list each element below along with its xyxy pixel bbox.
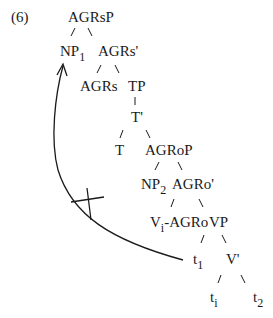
- node-agro-bar: AGRo': [172, 177, 214, 192]
- node-agrs: AGRs: [80, 79, 118, 94]
- node-np2: NP2: [141, 177, 166, 192]
- node-t: T: [115, 143, 124, 158]
- vi-base: V: [150, 214, 161, 230]
- node-vi-agro: Vi-AGRo: [150, 215, 208, 230]
- ti-subscript: i: [214, 296, 217, 310]
- syntax-tree-diagram: (6) AGRsP NP1 AGRs' AGRs TP T' T AGRoP N…: [0, 0, 273, 318]
- node-agrsp: AGRsP: [68, 10, 114, 25]
- node-ti: ti: [210, 290, 218, 305]
- np2-subscript: 2: [160, 183, 166, 197]
- node-v-bar: V': [226, 252, 240, 267]
- node-agrs-bar: AGRs': [98, 44, 138, 59]
- example-number: (6): [11, 10, 29, 25]
- node-vp: VP: [209, 215, 228, 230]
- node-t1: t1: [193, 252, 203, 267]
- np2-base: NP: [141, 176, 160, 192]
- vi-agro-suffix: -AGRo: [164, 214, 208, 230]
- t2-subscript: 2: [257, 296, 263, 310]
- node-t-bar: T': [131, 110, 143, 125]
- node-np1: NP1: [60, 44, 85, 59]
- np1-subscript: 1: [79, 50, 85, 64]
- node-agrop: AGRoP: [145, 143, 193, 158]
- t1-subscript: 1: [197, 258, 203, 272]
- np1-base: NP: [60, 43, 79, 59]
- node-tp: TP: [128, 79, 146, 94]
- node-t2: t2: [253, 290, 263, 305]
